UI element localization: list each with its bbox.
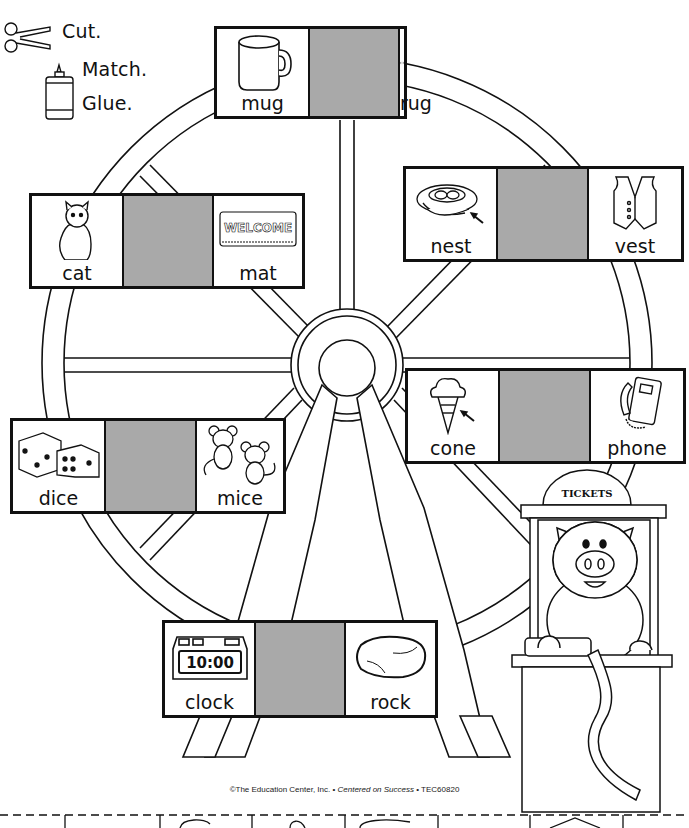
picture-clock: 10:00 clock <box>165 623 254 715</box>
word-phone: phone <box>591 437 683 459</box>
ice-cream-cone-icon <box>408 377 498 433</box>
word-vest: vest <box>589 235 681 257</box>
blank-glue-space[interactable] <box>496 169 589 259</box>
footer-code: • TEC60820 <box>414 785 459 794</box>
picture-rug: rug <box>400 29 404 116</box>
mug-icon <box>217 35 308 91</box>
instruction-glue: Glue. <box>82 92 133 114</box>
picture-cat: cat <box>32 196 122 286</box>
phone-icon <box>591 377 683 433</box>
clock-icon: 10:00 <box>165 629 254 685</box>
welcome-mat-icon: WELCOME <box>214 202 302 258</box>
copyright-footer: ©The Education Center, Inc. • Centered o… <box>0 785 689 794</box>
blank-glue-space[interactable] <box>308 29 400 116</box>
card-clock-rock: 10:00 clock rock <box>162 620 438 718</box>
word-clock: clock <box>165 691 254 713</box>
dice-icon <box>13 427 104 483</box>
footer-slogan: Centered on Success <box>338 785 415 794</box>
word-cat: cat <box>32 262 122 284</box>
word-dice: dice <box>13 487 104 509</box>
cut-line <box>0 815 689 828</box>
svg-text:TICKETS: TICKETS <box>561 488 612 499</box>
card-nest-vest: nest vest <box>403 166 684 262</box>
svg-text:WELCOME: WELCOME <box>224 221 292 235</box>
mice-icon <box>197 427 283 483</box>
word-rock: rock <box>346 691 435 713</box>
word-rug: rug <box>400 92 404 114</box>
picture-mice: mice <box>197 421 283 511</box>
instruction-cut: Cut. <box>62 20 102 42</box>
rock-icon <box>346 629 435 685</box>
blank-glue-space[interactable] <box>104 421 197 511</box>
rug-icon <box>400 35 404 91</box>
word-mice: mice <box>197 487 283 509</box>
word-mug: mug <box>217 92 308 114</box>
instruction-match: Match. <box>82 58 147 80</box>
tickets-sign-text: TICKETS <box>561 488 612 499</box>
picture-mug: mug <box>217 29 308 116</box>
card-cone-phone: cone phone <box>405 368 686 464</box>
word-cone: cone <box>408 437 498 459</box>
word-nest: nest <box>406 235 496 257</box>
ticket-booth <box>512 470 672 812</box>
nest-icon <box>406 175 496 231</box>
instructions: Cut. Match. Glue. <box>0 10 220 130</box>
footer-publisher: ©The Education Center, Inc. • <box>230 785 338 794</box>
card-mug-rug: mug rug <box>214 26 407 119</box>
blank-glue-space[interactable] <box>498 371 591 461</box>
picture-rock: rock <box>346 623 435 715</box>
picture-phone: phone <box>591 371 683 461</box>
blank-glue-space[interactable] <box>122 196 214 286</box>
vest-icon <box>589 175 681 231</box>
picture-vest: vest <box>589 169 681 259</box>
word-mat: mat <box>214 262 302 284</box>
picture-mat: WELCOME mat <box>214 196 302 286</box>
card-cat-mat: cat WELCOME mat <box>29 193 305 289</box>
card-dice-mice: dice mice <box>10 418 286 514</box>
cat-icon <box>32 202 122 258</box>
picture-nest: nest <box>406 169 496 259</box>
picture-cone: cone <box>408 371 498 461</box>
picture-dice: dice <box>13 421 104 511</box>
blank-glue-space[interactable] <box>254 623 346 715</box>
svg-text:10:00: 10:00 <box>186 654 234 672</box>
